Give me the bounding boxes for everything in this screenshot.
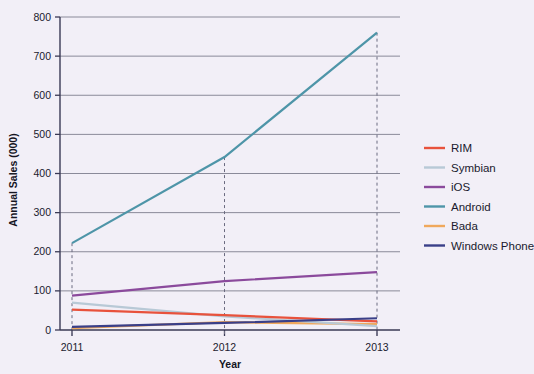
- legend-label: Windows Phone: [451, 240, 534, 252]
- y-tick-label: 700: [33, 50, 51, 62]
- y-tick-label: 400: [33, 167, 51, 179]
- y-axis-title: Annual Sales (000): [7, 133, 19, 226]
- legend-label: Symbian: [451, 162, 496, 174]
- legend-label: iOS: [451, 181, 471, 193]
- x-tick-label: 2011: [61, 341, 84, 353]
- y-tick-label: 0: [45, 324, 51, 336]
- x-axis-title: Year: [219, 358, 241, 370]
- y-tick-label: 200: [33, 245, 51, 257]
- y-tick-label: 600: [33, 89, 51, 101]
- chart-canvas: 0100200300400500600700800 201120122013 R…: [0, 0, 534, 374]
- legend-label: RIM: [451, 142, 472, 154]
- y-tick-label: 100: [33, 284, 51, 296]
- legend-label: Android: [451, 201, 491, 213]
- x-tick-label: 2012: [213, 341, 237, 353]
- y-tick-label: 300: [33, 206, 51, 218]
- line-chart: 0100200300400500600700800 201120122013 R…: [0, 0, 534, 374]
- x-tick-label: 2013: [365, 341, 389, 353]
- y-tick-label: 500: [33, 128, 51, 140]
- legend-label: Bada: [451, 220, 478, 232]
- y-tick-label: 800: [33, 11, 51, 23]
- y-tick-labels-group: 0100200300400500600700800: [33, 11, 51, 336]
